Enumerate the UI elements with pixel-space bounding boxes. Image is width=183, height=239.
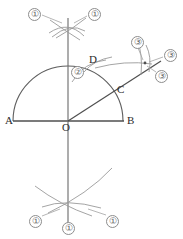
point-label-b: B xyxy=(127,115,134,126)
geometry-diagram: A O B C D ① ① ② ③ ③ ③ ① ① ① xyxy=(0,0,183,239)
step-label-right-side: ③ xyxy=(164,49,177,62)
leader-line-bottom-left xyxy=(42,209,60,216)
point-label-d: D xyxy=(89,54,97,65)
step-label-inside-arc: ② xyxy=(71,66,84,79)
point-label-c: C xyxy=(117,84,124,95)
step-label-right-top: ③ xyxy=(131,36,144,49)
step-label-bottom-left: ① xyxy=(29,215,42,228)
step-label-right-bottom: ③ xyxy=(155,70,168,83)
step3-intersection-dot xyxy=(144,62,147,65)
construction-arc-right-a xyxy=(95,63,152,68)
leader-line-bottom-right xyxy=(88,209,106,215)
point-label-o: O xyxy=(62,122,70,133)
step-label-bottom-center: ① xyxy=(62,222,75,235)
step-label-top-left: ① xyxy=(28,8,41,21)
point-label-a: A xyxy=(5,115,13,126)
step-label-bottom-right: ① xyxy=(106,215,119,228)
step-label-top-right: ① xyxy=(88,8,101,21)
construction-arc-bottom-c xyxy=(42,203,101,208)
construction-arc-bottom-b xyxy=(48,168,112,213)
construction-arc-bottom-a xyxy=(35,186,92,216)
geometry-canvas xyxy=(0,0,183,239)
